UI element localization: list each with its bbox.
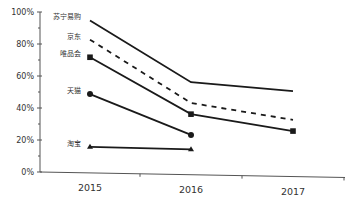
x-tick-label: 2017 — [281, 186, 305, 197]
series-3 — [87, 91, 194, 138]
series-2 — [87, 54, 296, 133]
x-tick-label: 2016 — [179, 184, 203, 195]
series-labels: 苏宁易购京东唯品会天猫淘宝 — [53, 12, 81, 147]
circle-marker — [87, 91, 93, 97]
series-label: 唯品会 — [60, 49, 81, 58]
square-marker — [290, 128, 296, 134]
series-label: 苏宁易购 — [53, 12, 81, 21]
x-axis: 201520162017 — [40, 172, 345, 197]
series-line — [90, 20, 293, 91]
series-line — [90, 94, 191, 135]
y-tick-label: 100% — [11, 8, 34, 17]
y-tick-label: 60% — [16, 72, 34, 81]
y-axis: 0%20%40%60%80%100% — [11, 8, 42, 177]
series-line — [90, 40, 293, 120]
series-label: 京东 — [67, 32, 81, 41]
square-marker — [87, 54, 93, 60]
series-4 — [87, 144, 194, 152]
circle-marker — [188, 132, 194, 138]
line-chart: 0%20%40%60%80%100% 201520162017 苏宁易购京东唯品… — [0, 0, 356, 206]
series-line — [90, 147, 191, 150]
chart-canvas: 0%20%40%60%80%100% 201520162017 苏宁易购京东唯品… — [0, 0, 356, 206]
y-tick-label: 20% — [16, 136, 34, 145]
series-group — [87, 20, 296, 151]
series-0 — [90, 20, 293, 91]
series-1 — [90, 40, 293, 120]
series-line — [90, 57, 293, 131]
y-tick-label: 80% — [16, 40, 34, 49]
square-marker — [188, 111, 194, 117]
x-tick-label: 2015 — [78, 182, 102, 193]
series-label: 淘宝 — [67, 139, 81, 148]
series-label: 天猫 — [67, 86, 81, 95]
y-tick-label: 40% — [16, 104, 34, 113]
y-tick-label: 0% — [21, 168, 34, 177]
